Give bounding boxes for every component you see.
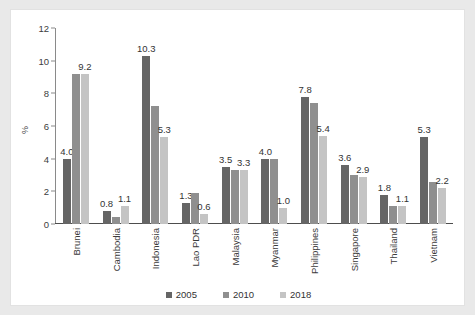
bar-malaysia-2018[interactable]: 3.3 (240, 170, 248, 224)
legend-label: 2010 (233, 289, 254, 300)
legend-swatch-icon (280, 292, 286, 298)
y-axis-tick-label: 0 (44, 219, 49, 230)
bar-value-label: 1.0 (277, 195, 290, 206)
bar-group: 0.81.1 (96, 28, 136, 224)
bar-cambodia-2018[interactable]: 1.1 (121, 206, 129, 224)
bar-indonesia-2005[interactable]: 10.3 (142, 56, 150, 224)
x-axis-category: Philippines (294, 226, 334, 288)
bar-philippines-2010[interactable] (310, 103, 318, 224)
x-axis-category: Malaysia (215, 226, 255, 288)
bar-indonesia-2018[interactable]: 5.3 (160, 137, 168, 224)
x-axis-category: Singapore (334, 226, 374, 288)
x-axis-category-label: Myanmar (269, 228, 280, 268)
x-axis-category: Brunei (56, 226, 96, 288)
x-axis-category: Myanmar (255, 226, 295, 288)
cropped-title-strip (0, 0, 475, 9)
bar-value-label: 3.3 (237, 157, 250, 168)
legend-swatch-icon (223, 292, 229, 298)
x-axis-category-label: Malaysia (229, 228, 240, 266)
y-axis-tick-label: 10 (38, 55, 49, 66)
bar-value-label: 2.9 (356, 164, 369, 175)
bar-singapore-2018[interactable]: 2.9 (359, 177, 367, 224)
chart-legend: 200520102018 (11, 289, 466, 300)
bar-vietnam-2018[interactable]: 2.2 (438, 188, 446, 224)
x-axis-category-label: Lao PDR (189, 228, 200, 267)
bar-thailand-2010[interactable] (389, 206, 397, 224)
bar-singapore-2010[interactable] (350, 175, 358, 224)
bar-vietnam-2005[interactable]: 5.3 (420, 137, 428, 224)
bar-malaysia-2010[interactable] (231, 170, 239, 224)
bar-malaysia-2005[interactable]: 3.5 (222, 167, 230, 224)
bar-group: 4.01.0 (255, 28, 295, 224)
bar-group: 7.85.4 (294, 28, 334, 224)
bar-value-label: 3.5 (219, 154, 232, 165)
bar-myanmar-2005[interactable]: 4.0 (261, 159, 269, 224)
bar-vietnam-2010[interactable] (429, 182, 437, 224)
legend-label: 2005 (176, 289, 197, 300)
plot-area: % 024681012 4.09.20.81.110.35.31.30.63.5… (11, 10, 466, 307)
bar-brunei-2005[interactable]: 4.0 (63, 159, 71, 224)
bar-lao-pdr-2018[interactable]: 0.6 (200, 214, 208, 224)
x-axis-category: Thailand (374, 226, 414, 288)
bar-group: 5.32.2 (413, 28, 453, 224)
bar-value-label: 10.3 (137, 43, 156, 54)
y-axis-tick-label: 2 (44, 186, 49, 197)
bar-value-label: 0.6 (197, 201, 210, 212)
y-axis-tick-label: 6 (44, 121, 49, 132)
bar-philippines-2005[interactable]: 7.8 (301, 97, 309, 224)
bar-thailand-2018[interactable]: 1.1 (398, 206, 406, 224)
bar-groups: 4.09.20.81.110.35.31.30.63.53.34.01.07.8… (56, 28, 453, 224)
bar-group: 4.09.2 (56, 28, 96, 224)
bar-value-label: 1.1 (396, 193, 409, 204)
x-axis-category: Indonesia (135, 226, 175, 288)
y-axis-tick-label: 4 (44, 153, 49, 164)
bar-value-label: 5.3 (158, 124, 171, 135)
x-axis-category-label: Indonesia (150, 228, 161, 269)
y-axis-tick-label: 8 (44, 88, 49, 99)
bar-group: 1.30.6 (175, 28, 215, 224)
x-axis-category: Vietnam (413, 226, 453, 288)
y-axis-tick-label: 12 (38, 23, 49, 34)
bar-cambodia-2005[interactable]: 0.8 (103, 211, 111, 224)
bar-value-label: 9.2 (78, 61, 91, 72)
bar-myanmar-2018[interactable]: 1.0 (279, 208, 287, 224)
x-axis-category-label: Vietnam (428, 228, 439, 263)
bar-myanmar-2010[interactable] (270, 159, 278, 224)
bar-value-label: 1.8 (378, 182, 391, 193)
bar-value-label: 2.2 (436, 175, 449, 186)
bar-lao-pdr-2005[interactable]: 1.3 (182, 203, 190, 224)
bar-brunei-2010[interactable] (72, 74, 80, 224)
bar-group: 1.81.1 (374, 28, 414, 224)
bar-value-label: 0.8 (100, 198, 113, 209)
x-axis-category-label: Cambodia (110, 228, 121, 271)
bar-brunei-2018[interactable]: 9.2 (81, 74, 89, 224)
bar-value-label: 1.1 (118, 193, 131, 204)
bar-value-label: 5.3 (418, 124, 431, 135)
bar-value-label: 7.8 (298, 84, 311, 95)
y-axis-tick-labels: 024681012 (29, 28, 55, 224)
legend-item-2018[interactable]: 2018 (280, 289, 311, 300)
bar-philippines-2018[interactable]: 5.4 (319, 136, 327, 224)
bar-group: 10.35.3 (135, 28, 175, 224)
x-axis-category-labels: BruneiCambodiaIndonesiaLao PDRMalaysiaMy… (56, 226, 453, 288)
legend-item-2010[interactable]: 2010 (223, 289, 254, 300)
chart-card: % 024681012 4.09.20.81.110.35.31.30.63.5… (10, 9, 465, 306)
x-axis-category-label: Philippines (309, 228, 320, 274)
bar-value-label: 4.0 (259, 146, 272, 157)
x-axis-category-label: Brunei (70, 228, 81, 255)
bar-value-label: 5.4 (316, 123, 329, 134)
bar-value-label: 3.6 (338, 152, 351, 163)
legend-item-2005[interactable]: 2005 (166, 289, 197, 300)
bar-cambodia-2010[interactable] (112, 217, 120, 224)
x-axis-category-label: Thailand (388, 228, 399, 264)
legend-label: 2018 (290, 289, 311, 300)
bar-group: 3.62.9 (334, 28, 374, 224)
bar-thailand-2005[interactable]: 1.8 (380, 195, 388, 224)
bar-singapore-2005[interactable]: 3.6 (341, 165, 349, 224)
x-axis-category: Cambodia (96, 226, 136, 288)
x-axis-category: Lao PDR (175, 226, 215, 288)
legend-swatch-icon (166, 292, 172, 298)
x-axis-category-label: Singapore (348, 228, 359, 271)
bar-group: 3.53.3 (215, 28, 255, 224)
